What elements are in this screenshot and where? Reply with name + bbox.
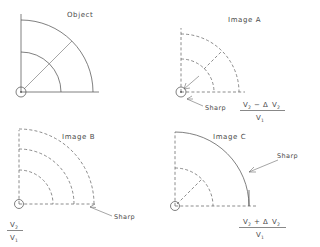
image-c-num-delta: Δ [263, 218, 268, 226]
image-c-num-operator: + [254, 218, 260, 226]
image-a-den-sub: 1 [261, 118, 264, 123]
panel-image-c: Image C Sharp V 2 + Δ V 2 V 1 [171, 132, 299, 240]
image-a-formula: V 2 − Δ V 2 V 1 [240, 101, 285, 123]
image-a-origin-dot [180, 91, 182, 93]
image-b-formula: V 2 V 1 [7, 221, 23, 243]
image-a-num-delta: Δ [263, 101, 268, 109]
image-c-num-sub2: 2 [277, 222, 280, 227]
image-a-radial-line [204, 51, 222, 69]
object-radial-line [24, 41, 72, 89]
image-a-sharp-arrow [187, 99, 203, 106]
image-c-sharp-label: Sharp [277, 152, 298, 160]
image-b-den-sub: 1 [15, 238, 18, 243]
image-a-num-sub1: 2 [248, 105, 251, 110]
image-a-num-operator: − [254, 101, 260, 109]
image-a-outer-arc [181, 34, 239, 92]
object-title: Object [67, 11, 93, 19]
image-c-den-sub: 1 [261, 235, 264, 240]
image-b-sharp-arrow [90, 207, 112, 216]
image-b-title: Image B [62, 133, 95, 141]
panel-object: Object [16, 11, 99, 97]
image-b-sharp-label: Sharp [114, 213, 135, 221]
panel-image-a: Image A Sharp V 2 − Δ V 2 V 1 [176, 16, 285, 123]
image-a-title: Image A [228, 16, 261, 24]
image-a-arrow-upper [184, 76, 199, 89]
four-panel-diagram: Object Image A Sharp V 2 − Δ V [0, 0, 320, 247]
image-a-sharp-label: Sharp [205, 104, 226, 112]
image-b-sharp-arrow-head [90, 204, 96, 208]
panel-image-b: Image B Sharp V 2 V 1 [7, 129, 135, 243]
image-c-formula: V 2 + Δ V 2 V 1 [239, 218, 286, 240]
image-b-num-sub: 2 [15, 225, 18, 230]
image-a-num-sub2: 2 [277, 105, 280, 110]
image-b-inner-arc [19, 170, 53, 204]
object-origin-dot [20, 91, 22, 93]
image-b-middle-arc [19, 149, 74, 204]
image-c-num-sub1: 2 [248, 222, 251, 227]
image-c-radial-line [177, 179, 202, 204]
image-c-title: Image C [213, 133, 246, 141]
image-c-sharp-arrow [249, 160, 278, 172]
image-a-sharp-arrow-head [187, 96, 193, 99]
